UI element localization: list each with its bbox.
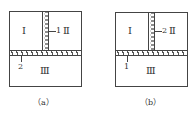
region-label-top-left: Ⅰ xyxy=(22,26,26,36)
region-label-top-right: Ⅱ xyxy=(63,26,70,36)
panel-a: Ⅰ 1 Ⅱ 2 Ⅲ （a） xyxy=(0,0,98,120)
region-label-bottom: Ⅲ xyxy=(146,66,156,76)
region-label-top-left: Ⅰ xyxy=(128,26,132,36)
horizontal-strip-label: 1 xyxy=(124,63,129,71)
leader-line xyxy=(155,31,162,32)
vertical-strip xyxy=(148,13,155,51)
vertical-strip-label: 2 xyxy=(162,27,167,35)
vertical-strip xyxy=(42,12,49,51)
horizontal-strip-label: 2 xyxy=(18,63,23,71)
caption: （a） xyxy=(33,99,54,107)
region-label-bottom: Ⅲ xyxy=(40,66,50,76)
panel-b: Ⅰ 2 Ⅱ 1 Ⅲ （b） xyxy=(98,0,196,120)
caption: （b） xyxy=(140,99,161,107)
vertical-strip-label: 1 xyxy=(56,27,61,35)
region-label-top-right: Ⅱ xyxy=(169,26,176,36)
leader-line xyxy=(49,31,56,32)
